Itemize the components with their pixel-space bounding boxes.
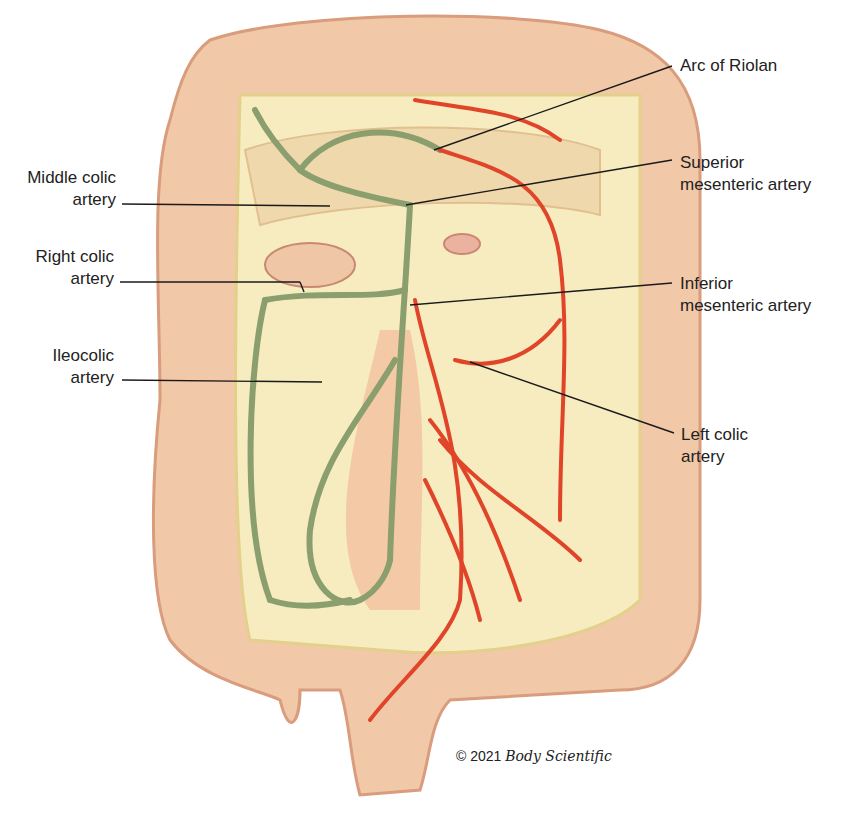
copyright-brand: Body Scientific	[505, 748, 612, 764]
label-superior-mesenteric-artery: Superior mesenteric artery	[680, 152, 811, 196]
label-line: artery	[0, 268, 114, 290]
label-line: Superior	[680, 152, 811, 174]
label-line: Ileocolic	[0, 345, 114, 367]
anatomy-figure: Middle colic artery Right colic artery I…	[0, 0, 844, 818]
label-line: artery	[681, 446, 748, 468]
label-middle-colic-artery: Middle colic artery	[0, 167, 116, 211]
copyright-year: © 2021	[456, 748, 501, 764]
colon-illustration	[0, 0, 844, 818]
label-line: artery	[0, 367, 114, 389]
label-right-colic-artery: Right colic artery	[0, 246, 114, 290]
label-line: Arc of Riolan	[680, 55, 777, 77]
label-arc-of-riolan: Arc of Riolan	[680, 55, 777, 77]
label-ileocolic-artery: Ileocolic artery	[0, 345, 114, 389]
label-line: mesenteric artery	[680, 174, 811, 196]
label-inferior-mesenteric-artery: Inferior mesenteric artery	[680, 273, 811, 317]
label-left-colic-artery: Left colic artery	[681, 424, 748, 468]
copyright-notice: © 2021 Body Scientific	[456, 748, 612, 764]
label-line: mesenteric artery	[680, 295, 811, 317]
label-line: Right colic	[0, 246, 114, 268]
label-line: Inferior	[680, 273, 811, 295]
label-line: Middle colic	[0, 167, 116, 189]
label-line: artery	[0, 189, 116, 211]
colon-frame	[153, 16, 700, 795]
label-line: Left colic	[681, 424, 748, 446]
